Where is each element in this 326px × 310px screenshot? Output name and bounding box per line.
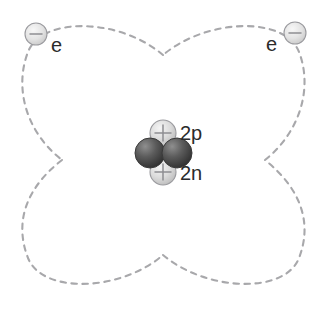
atom-diagram: 2p 2n e e [0,0,326,310]
neutron-left-sphere [135,138,165,168]
electron-left-label: e [51,34,62,56]
nucleus-group: 2p 2n [135,120,202,185]
electron-right-group: e [266,22,306,55]
neutron-count-label: 2n [180,162,202,184]
electron-right-label: e [266,33,277,55]
orbital-path-bottom-left [22,160,163,284]
atom-diagram-canvas: 2p 2n e e [0,0,326,310]
proton-count-label: 2p [180,122,202,144]
electron-left-group: e [25,23,62,56]
